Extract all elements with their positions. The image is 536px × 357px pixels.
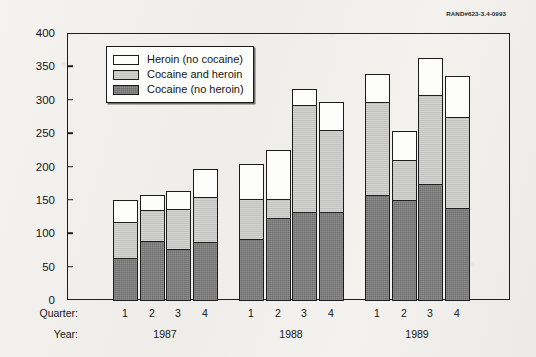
quarter-label: 1 [122,307,128,319]
bar-segment [365,102,390,196]
quarter-label: 3 [175,307,181,319]
bar-segment [418,95,443,185]
legend-item-heroin_no_cocaine: Heroin (no cocaine) [113,52,244,67]
y-tick-label: 400 [15,27,55,39]
quarter-label: 2 [275,307,281,319]
stacked-bar [445,76,470,300]
quarter-label: 1 [248,307,254,319]
stacked-bar [392,131,417,300]
legend-swatch-icon [113,70,139,80]
stacked-bar [418,58,443,300]
quarter-label: 4 [328,307,334,319]
catalog-number: RAND#623-3.4-0993 [446,10,506,17]
legend-item-label: Heroin (no cocaine) [147,54,243,65]
bar-segment [319,130,344,213]
bar-segment [445,208,470,301]
quarter-label: 1 [374,307,380,319]
bar-segment [292,212,317,301]
bar-segment [239,239,264,301]
legend-item-cocaine_no_heroin: Cocaine (no heroin) [113,82,244,97]
chart-figure: RAND#623-3.4-0993 Total episodes 0501001… [0,0,536,357]
bar-segment [113,258,138,301]
bar-segment [166,191,191,210]
bar-segment [365,195,390,301]
bar-segment [266,199,291,219]
quarter-label: 3 [301,307,307,319]
year-label: 1988 [279,328,302,340]
y-tick-label: 100 [15,227,55,239]
stacked-bar [113,200,138,300]
quarter-label: 4 [454,307,460,319]
stacked-bar [193,169,218,300]
quarter-label: 3 [427,307,433,319]
bar-segment [266,218,291,301]
stacked-bar [319,102,344,300]
bar-segment [445,117,470,208]
legend-swatch-icon [113,55,139,65]
bar-segment [392,131,417,161]
y-tick-label: 300 [15,94,55,106]
stacked-bar [266,150,291,300]
bar-segment [166,209,191,250]
y-axis: Total episodes 050100150200250300350400 [0,0,67,300]
legend-item-label: Cocaine and heroin [147,69,242,80]
quarter-label: 4 [202,307,208,319]
quarter-label: 2 [149,307,155,319]
bar-segment [166,249,191,301]
bar-segment [292,105,317,213]
bar-segment [193,197,218,244]
bar-segment [140,241,165,301]
bar-segment [418,58,443,96]
year-label: 1989 [405,328,428,340]
x-axis-labels: Quarter:Year:123412341234198719881989 [0,300,536,357]
bar-segment [266,150,291,199]
quarter-label: 2 [401,307,407,319]
legend-swatch-icon [113,85,139,95]
legend-item-cocaine_and_heroin: Cocaine and heroin [113,67,244,82]
y-tick-label: 150 [15,194,55,206]
bar-segment [418,184,443,301]
bar-segment [193,169,218,198]
y-tick-label: 50 [15,261,55,273]
bar-segment [239,164,264,199]
stacked-bar [166,191,191,300]
bar-segment [292,89,317,106]
bar-segment [193,242,218,301]
bar-segment [392,160,417,201]
quarter-row-title: Quarter: [16,307,78,319]
bar-segment [319,212,344,301]
bar-segment [113,222,138,259]
year-label: 1987 [153,328,176,340]
legend-item-label: Cocaine (no heroin) [147,84,244,95]
bar-segment [113,200,138,223]
chart-legend: Heroin (no cocaine)Cocaine and heroinCoc… [106,46,254,103]
stacked-bar [239,164,264,300]
stacked-bar [140,195,165,301]
bar-segment [445,76,470,118]
y-tick-label: 250 [15,127,55,139]
y-tick-label: 200 [15,161,55,173]
bar-segment [239,199,264,240]
year-row-title: Year: [16,328,78,340]
stacked-bar [292,89,317,300]
bar-segment [392,200,417,301]
bar-segment [319,102,344,131]
bar-segment [140,195,165,212]
bar-segment [365,74,390,103]
y-tick-label: 350 [15,60,55,72]
bar-segment [140,210,165,242]
stacked-bar [365,74,390,300]
